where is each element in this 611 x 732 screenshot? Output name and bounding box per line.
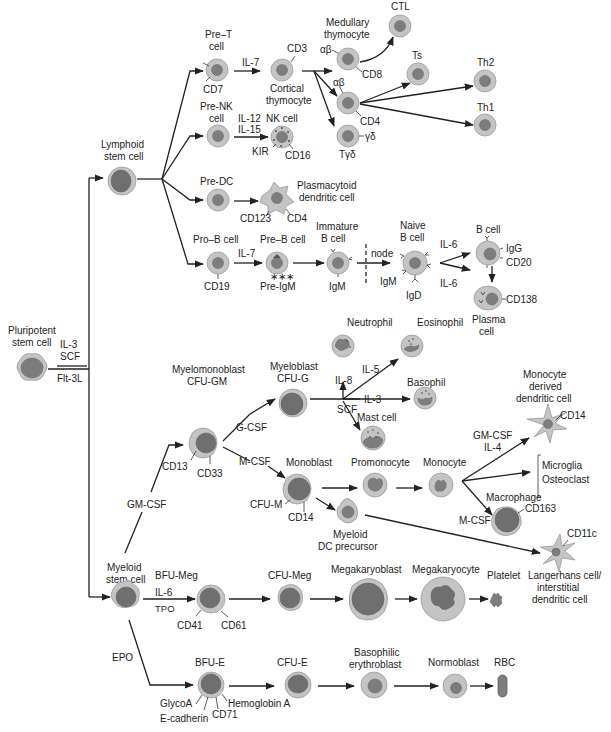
cd4-t-cell [337, 92, 359, 114]
igm-marker-naive: IgM [380, 276, 397, 287]
myelomonoblast-label: Myelomonoblast [172, 364, 245, 375]
pdc-label: Plasmacytoid [297, 180, 356, 191]
pre-igm-marker: Pre-IgM [260, 281, 296, 292]
pro-b-label: Pro–B cell [193, 234, 239, 245]
baso-erythroblast-label: Basophilic [354, 647, 400, 658]
factor-gm-csf: GM-CSF [127, 499, 166, 510]
rbc-cell [498, 675, 507, 697]
pre-b-label: Pre–B cell [260, 234, 306, 245]
langerhans-label-3: dendritic cell [532, 594, 588, 605]
monocyte-label: Monocyte [423, 457, 467, 468]
factor-m-csf-mac: M-CSF [459, 515, 491, 526]
hematopoiesis-diagram: Pluripotent stem cell IL-3 SCF Flt-3L Ly… [0, 0, 611, 732]
pre-t-label: Pre–T [205, 29, 232, 40]
mast-cell-label: Mast cell [357, 412, 396, 423]
immature-b-label-2: B cell [321, 233, 345, 244]
glycoa-marker: GlycoA [160, 698, 193, 709]
cortical-label: Cortical [270, 83, 304, 94]
lymphoid-label: Lymphoid [101, 139, 144, 150]
basophilic-erythroblast-cell [361, 672, 387, 698]
langerhans-cell [540, 534, 575, 572]
megakaryocyte-cell [421, 577, 465, 621]
microglia-label: Microglia [542, 460, 582, 471]
igg-marker: IgG [506, 243, 522, 254]
mo-dc-label-3: dendritic cell [516, 393, 572, 404]
factor-il15: IL-15 [238, 124, 261, 135]
cd138-marker: CD138 [506, 294, 538, 305]
medullary-label-2: thymocyte [324, 29, 370, 40]
rbc-label: RBC [494, 657, 515, 668]
e-cadherin-marker: E-cadherin [160, 713, 208, 724]
myeloblast-cell [279, 389, 307, 417]
eosinophil-cell [401, 335, 423, 357]
bfu-meg-label: BFU-Meg [155, 570, 198, 581]
langerhans-label-2: interstitial [537, 582, 579, 593]
normoblast-label: Normoblast [428, 657, 479, 668]
ctl-cell [389, 15, 411, 37]
tgd-label: Tγδ [339, 149, 356, 160]
naive-b-label: Naive [400, 220, 426, 231]
myeloid-dc-label: Myeloid [333, 529, 367, 540]
neutrophil-label: Neutrophil [347, 317, 393, 328]
immature-b-cell [327, 252, 349, 274]
factor-scf-myeloid: SCF [337, 404, 357, 415]
pdc-label-2: dendritic cell [299, 192, 355, 203]
factor-flt3l: Flt-3L [57, 373, 83, 384]
cortical-thymocyte [271, 59, 293, 81]
pre-dc-label: Pre-DC [200, 176, 233, 187]
factor-m-csf: M-CSF [239, 456, 271, 467]
factor-scf: SCF [60, 351, 80, 362]
cd8-marker: CD8 [362, 69, 382, 80]
factor-il3-myeloid: IL-3 [364, 394, 382, 405]
pre-dc-cell [207, 189, 229, 211]
igd-marker: IgD [406, 290, 422, 301]
cfu-meg-label: CFU-Meg [268, 570, 311, 581]
neutrophil-cell [332, 335, 354, 357]
medullary-label: Medullary [326, 17, 369, 28]
monocyte-cell [429, 473, 453, 497]
medullary-thymocyte [337, 48, 359, 70]
factor-epo: EPO [112, 652, 133, 663]
lymphoid-label-2: stem cell [104, 151, 143, 162]
factor-il7-b: IL-7 [238, 248, 256, 259]
bfu-e-cell [198, 672, 224, 698]
factor-il6-bottom: IL-6 [440, 278, 458, 289]
monoblast-cell [283, 474, 311, 504]
megakaryoblast-label: Megakaryoblast [331, 564, 402, 575]
cd4-marker: CD4 [360, 116, 380, 127]
cd61-marker: CD61 [221, 620, 247, 631]
th2-label: Th2 [477, 57, 495, 68]
factor-gm-csf-mo: GM-CSF [473, 430, 512, 441]
pre-nk-label: Pre-NK [200, 101, 233, 112]
megakaryoblast-cell [349, 578, 387, 620]
naive-b-label-2: B cell [400, 232, 424, 243]
myeloblast-label: Myeloblast [270, 361, 318, 372]
plasma-label: Plasma [472, 314, 506, 325]
factor-il5: IL-5 [362, 364, 380, 375]
cd3-marker: CD3 [287, 43, 307, 54]
macrophage-label: Macrophage [486, 492, 542, 503]
plasmacytoid-dendritic-cell [260, 182, 294, 214]
cd163-marker: CD163 [525, 503, 557, 514]
cfu-e-cell [285, 672, 311, 698]
factor-il3: IL-3 [60, 339, 78, 350]
th1-label: Th1 [477, 102, 495, 113]
pluripotent-label: Pluripotent [8, 325, 56, 336]
cd41-marker: CD41 [177, 620, 203, 631]
kir-marker: KIR [252, 146, 269, 157]
basophil-cell [414, 387, 436, 409]
cd13-marker: CD13 [162, 461, 188, 472]
th1-cell [474, 114, 496, 136]
b-cell [476, 241, 500, 265]
pre-t-label-2: cell [209, 41, 224, 52]
ts-cell [407, 63, 429, 85]
naive-b-cell [403, 251, 427, 275]
megakaryocyte-label: Megakaryocyte [412, 564, 480, 575]
cd123-marker: CD123 [240, 213, 272, 224]
promonocyte-label: Promonocyte [351, 457, 410, 468]
ab-marker: αβ [320, 44, 332, 55]
baso-erythroblast-label-2: erythroblast [349, 659, 401, 670]
cd19-marker: CD19 [204, 281, 230, 292]
ts-label: Ts [412, 50, 422, 61]
promonocyte-cell [363, 473, 387, 497]
